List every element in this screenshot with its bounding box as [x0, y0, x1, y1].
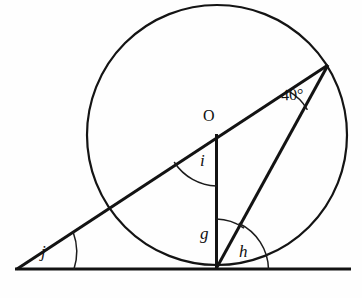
label-angle-g: g	[200, 225, 209, 242]
geometry-figure: O i g h j 40°	[0, 0, 362, 298]
angle-arc-i	[175, 163, 217, 187]
label-center-O: O	[203, 108, 215, 124]
label-angle-i: i	[200, 152, 205, 169]
geometry-canvas	[0, 0, 362, 298]
angle-arc-j	[73, 232, 76, 269]
label-angle-h: h	[239, 243, 248, 260]
chord-segment	[216, 65, 328, 269]
label-angle-40-degrees: 40°	[281, 87, 304, 104]
label-angle-j: j	[41, 243, 46, 260]
